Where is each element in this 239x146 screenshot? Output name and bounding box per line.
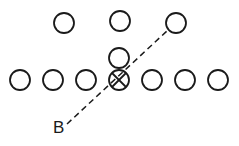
circle-icon	[110, 11, 130, 31]
dashed-path-line	[67, 30, 168, 124]
circle-icon	[54, 13, 74, 33]
label-b: B	[53, 118, 64, 137]
circle-icon	[109, 48, 129, 68]
circle-icon	[175, 70, 195, 90]
formation-diagram: B	[0, 0, 239, 146]
circle-icon	[166, 13, 186, 33]
player-circles	[10, 11, 228, 90]
circle-icon	[76, 70, 96, 90]
circle-icon	[43, 70, 63, 90]
circle-icon	[10, 70, 30, 90]
circle-icon	[208, 70, 228, 90]
circle-icon	[142, 70, 162, 90]
